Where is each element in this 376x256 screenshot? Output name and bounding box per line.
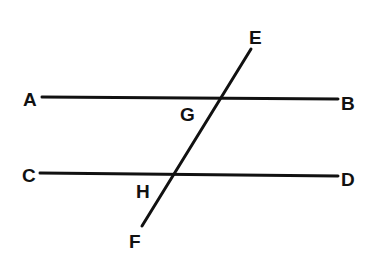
label-a: A bbox=[23, 89, 37, 110]
transversal-ef bbox=[142, 49, 251, 226]
label-g: G bbox=[180, 104, 195, 125]
line-cd bbox=[40, 173, 338, 176]
label-e: E bbox=[249, 27, 262, 48]
line-ab bbox=[42, 97, 338, 99]
label-d: D bbox=[341, 169, 355, 190]
parallel-lines-diagram: A B C D E F G H bbox=[0, 0, 376, 256]
label-c: C bbox=[22, 165, 36, 186]
label-f: F bbox=[129, 231, 141, 252]
label-h: H bbox=[136, 181, 150, 202]
label-b: B bbox=[341, 93, 355, 114]
